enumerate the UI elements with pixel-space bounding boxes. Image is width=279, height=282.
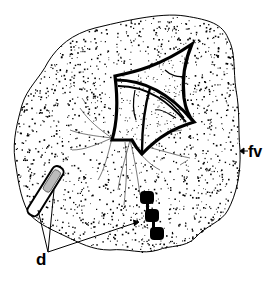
stipple-dot (25, 160, 27, 162)
stipple-dot (26, 109, 28, 111)
stipple-dot (213, 30, 214, 31)
stipple-dot (187, 229, 188, 230)
stipple-dot (187, 99, 189, 101)
stipple-dot (72, 72, 73, 73)
stipple-dot (59, 81, 61, 83)
stipple-dot (105, 188, 106, 189)
stipple-dot (237, 175, 238, 176)
stipple-dot (157, 139, 158, 140)
stipple-dot (220, 67, 221, 68)
stipple-dot (178, 213, 179, 214)
stipple-dot (180, 245, 181, 246)
stipple-dot (135, 134, 136, 135)
stipple-dot (79, 237, 80, 238)
stipple-dot (120, 78, 121, 79)
stipple-dot (200, 229, 202, 231)
stipple-dot (53, 120, 54, 121)
stipple-dot (91, 223, 93, 225)
stipple-dot (97, 97, 98, 98)
stipple-dot (93, 244, 94, 245)
stipple-dot (84, 205, 85, 206)
stipple-dot (229, 164, 230, 165)
stipple-dot (68, 191, 70, 193)
stipple-dot (142, 243, 144, 245)
stipple-dot (180, 119, 181, 120)
stipple-dot (197, 176, 198, 177)
stipple-dot (82, 131, 83, 132)
stipple-dot (203, 188, 204, 189)
stipple-dot (63, 161, 64, 162)
stipple-dot (129, 206, 130, 207)
stipple-dot (197, 139, 198, 140)
stipple-dot (78, 64, 79, 65)
stipple-dot (131, 69, 132, 70)
stipple-dot (161, 53, 162, 54)
stipple-dot (28, 170, 29, 171)
stipple-dot (138, 106, 139, 107)
stipple-dot (27, 151, 28, 152)
stipple-dot (169, 113, 170, 114)
stipple-dot (138, 35, 140, 37)
stipple-dot (198, 39, 200, 41)
stipple-dot (183, 181, 184, 182)
stipple-dot (216, 100, 217, 101)
stipple-dot (56, 85, 57, 86)
stipple-dot (72, 191, 73, 192)
stipple-dot (72, 118, 73, 119)
stipple-dot (172, 130, 173, 131)
stipple-dot (56, 70, 57, 71)
stipple-dot (89, 109, 91, 111)
stipple-dot (46, 97, 47, 98)
stipple-dot (132, 128, 133, 129)
stipple-dot (225, 39, 226, 40)
stipple-dot (68, 226, 69, 227)
stipple-dot (176, 93, 177, 94)
stipple-dot (155, 139, 156, 140)
stipple-dot (164, 107, 165, 108)
stipple-dot (84, 51, 85, 52)
stipple-dot (174, 92, 175, 93)
stipple-dot (202, 230, 204, 232)
stipple-dot (102, 92, 103, 93)
stipple-dot (184, 59, 185, 60)
stipple-dot (88, 190, 89, 191)
stipple-dot (206, 204, 207, 205)
stipple-dot (139, 92, 140, 93)
stipple-dot (192, 230, 194, 232)
stipple-dot (222, 177, 223, 178)
stipple-dot (123, 147, 124, 148)
stipple-dot (124, 87, 125, 88)
stipple-dot (106, 33, 108, 35)
stipple-dot (220, 212, 222, 214)
stipple-dot (154, 48, 156, 50)
stipple-dot (130, 169, 131, 170)
stipple-dot (208, 170, 209, 171)
stipple-dot (81, 182, 82, 183)
stipple-dot (109, 234, 110, 235)
stipple-dot (143, 166, 144, 167)
stipple-dot (169, 171, 171, 173)
stipple-dot (81, 51, 82, 52)
stipple-dot (104, 213, 106, 215)
stipple-dot (30, 93, 32, 95)
stipple-dot (188, 29, 189, 30)
stipple-dot (112, 201, 114, 203)
stipple-dot (128, 131, 129, 132)
stipple-dot (93, 121, 94, 122)
stipple-dot (187, 114, 188, 115)
stipple-dot (202, 99, 203, 100)
stipple-dot (206, 111, 207, 112)
stipple-dot (74, 50, 75, 51)
stipple-dot (44, 76, 45, 77)
stipple-dot (186, 188, 187, 189)
stipple-dot (141, 213, 142, 214)
stipple-dot (194, 190, 195, 191)
stipple-dot (35, 173, 36, 174)
stipple-dot (108, 223, 109, 224)
stipple-dot (40, 109, 42, 111)
stipple-dot (237, 172, 239, 174)
stipple-dot (215, 154, 216, 155)
stipple-dot (122, 245, 123, 246)
stipple-dot (44, 162, 45, 163)
stipple-dot (47, 207, 48, 208)
